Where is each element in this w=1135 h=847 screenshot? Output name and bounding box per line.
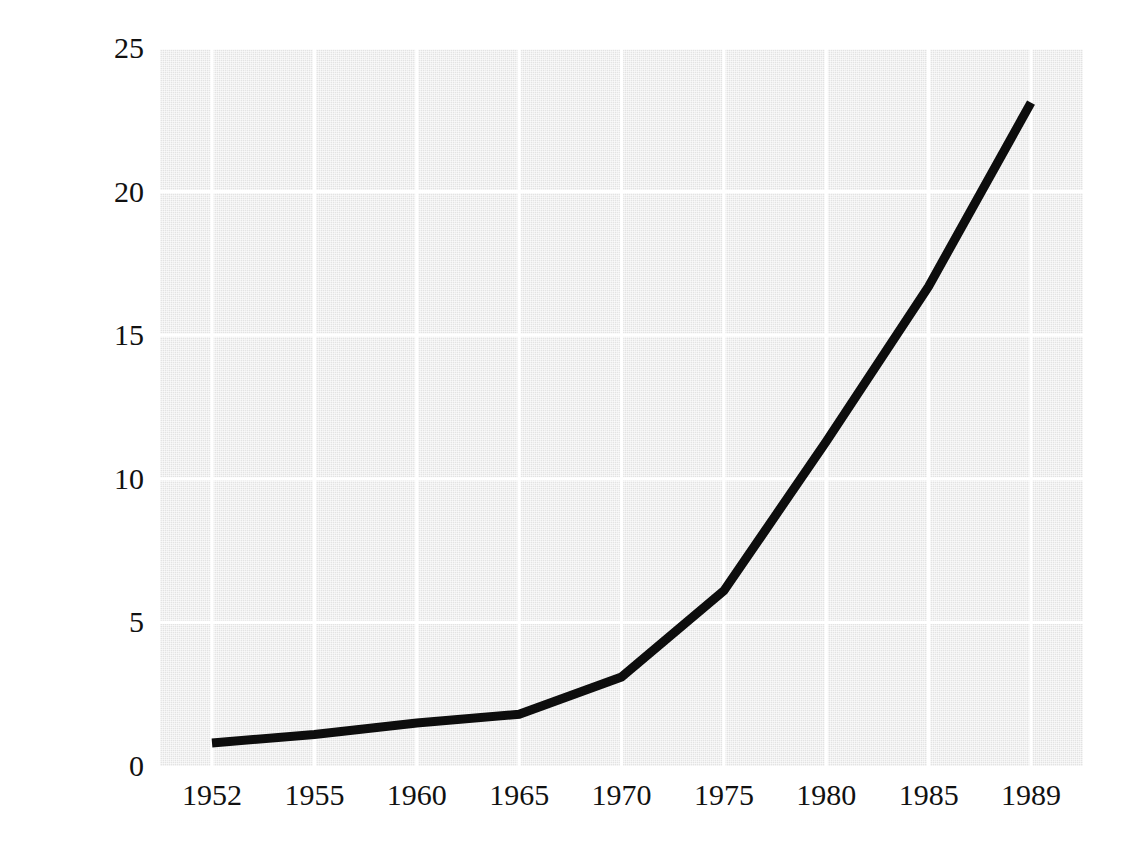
x-tick-label: 1975	[694, 780, 754, 810]
x-tick-label: 1955	[284, 780, 344, 810]
data-line-series	[160, 48, 1083, 766]
x-tick-label: 1952	[182, 780, 242, 810]
x-tick-label: 1985	[899, 780, 959, 810]
chart-figure: Millions of Dollars 0510152025 195219551…	[0, 0, 1135, 847]
x-tick-label: 1989	[1001, 780, 1061, 810]
x-tick-label: 1970	[592, 780, 652, 810]
plot-area	[160, 48, 1083, 766]
x-tick-label: 1980	[796, 780, 856, 810]
series-polyline	[212, 103, 1031, 743]
x-tick-label: 1965	[489, 780, 549, 810]
x-tick-label: 1960	[387, 780, 447, 810]
